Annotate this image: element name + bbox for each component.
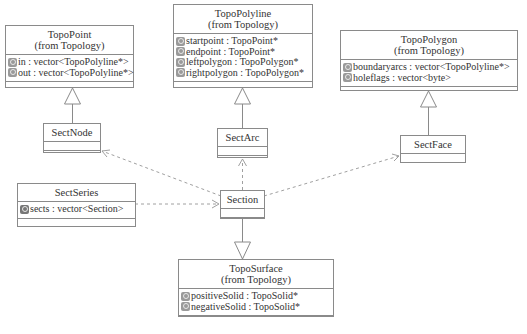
operation-list [179,316,333,325]
generalization-sectnode-topopoint [65,88,81,123]
attribute: in : vector<TopoPolyline*> [8,57,131,68]
class-package: (from Topology) [343,45,515,56]
class-header: Section [221,191,264,209]
class-name: Section [227,194,259,205]
class-name: TopoPolygon [401,34,457,45]
class-header: SectFace [401,136,465,154]
operation-list [44,151,100,160]
attribute-icon [20,205,29,214]
attribute-icon [181,302,190,311]
class-name: SectSeries [55,187,99,198]
operation-list [401,163,465,172]
operation-list [218,156,267,165]
class-topo-polyline[interactable]: TopoPolyline (from Topology) startpoint … [173,4,313,88]
attribute-icon [8,58,17,67]
class-topo-point[interactable]: TopoPoint (from Topology) in : vector<To… [5,25,134,88]
class-header: TopoPolygon (from Topology) [341,31,517,60]
attribute-icon [8,68,17,77]
attribute: out : vector<TopoPolyline*> [8,68,131,79]
class-sect-arc[interactable]: SectArc [217,128,268,158]
attribute-icon [343,73,352,82]
attribute-list [221,209,264,218]
class-name: SectNode [52,127,93,138]
attribute: sects : vector<Section> [20,204,133,215]
attribute: leftpolygon : TopoPolygon* [176,57,310,68]
class-section[interactable]: Section [220,190,265,219]
class-topo-polygon[interactable]: TopoPolygon (from Topology) boundaryarcs… [340,30,518,91]
attribute-icon [176,58,185,67]
class-name: TopoPolyline [215,8,271,19]
operation-list [221,218,264,227]
class-header: SectNode [44,124,100,142]
operation-list [6,82,133,91]
class-package: (from Topology) [176,19,310,30]
dependency-section-sectface [264,156,399,196]
attribute-icon [343,63,352,72]
class-sect-node[interactable]: SectNode [43,123,101,153]
class-header: TopoPolyline (from Topology) [174,5,312,34]
attribute-icon [181,292,190,301]
attribute-list: sects : vector<Section> [18,202,135,219]
class-header: SectArc [218,129,267,147]
attribute-list: positiveSolid : TopoSolid* negativeSolid… [179,289,333,316]
attribute: rightpolygon : TopoPolygon* [176,68,310,79]
class-package: (from Topology) [181,274,331,285]
attribute-list: in : vector<TopoPolyline*> out : vector<… [6,55,133,82]
attribute: positiveSolid : TopoSolid* [181,291,331,302]
class-name: SectArc [226,132,260,143]
attribute-list [401,154,465,163]
operation-list [174,82,312,91]
arrowhead-sectnode [102,150,110,157]
class-name: TopoPoint [48,29,92,40]
attribute: negativeSolid : TopoSolid* [181,302,331,313]
attribute-list: boundaryarcs : vector<TopoPolyline*> hol… [341,60,517,87]
class-header: TopoPoint (from Topology) [6,26,133,55]
attribute-list: startpoint : TopoPoint* endpoint : TopoP… [174,34,312,82]
class-topo-surface[interactable]: TopoSurface (from Topology) positiveSoli… [178,259,334,317]
class-header: SectSeries [18,184,135,202]
operation-list [341,87,517,96]
class-name: TopoSurface [229,263,283,274]
attribute-icon [176,37,185,46]
class-sect-series[interactable]: SectSeries sects : vector<Section> [17,183,136,227]
attribute-list [218,147,267,156]
attribute-icon [176,68,185,77]
attribute-icon [176,47,185,56]
attribute: startpoint : TopoPoint* [176,36,310,47]
attribute: holeflags : vector<byte> [343,73,515,84]
generalization-sectarc-topopolyline [235,88,251,128]
class-package: (from Topology) [8,40,131,51]
class-sect-face[interactable]: SectFace [400,135,466,163]
operation-list [18,219,135,228]
attribute-list [44,142,100,151]
class-header: TopoSurface (from Topology) [179,260,333,289]
generalization-sectface-topopolygon [421,91,437,135]
class-name: SectFace [414,139,452,150]
attribute: boundaryarcs : vector<TopoPolyline*> [343,62,515,73]
